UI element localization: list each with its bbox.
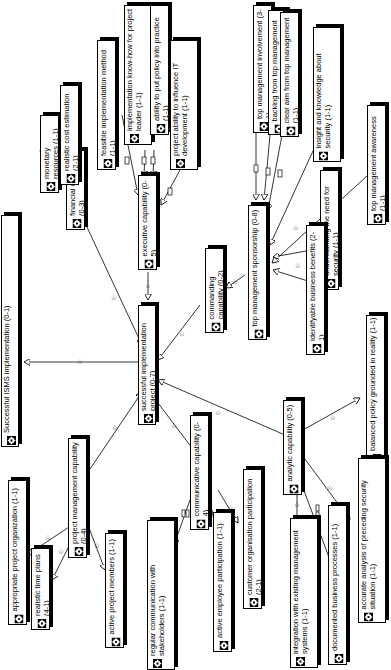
node-label: top management awareness (1-1) (368, 107, 386, 211)
goal-gear-icon (291, 657, 300, 666)
node-label: clear aim from top management (1-1) (281, 14, 299, 123)
node-dbp[interactable]: documented business processes (1-1) (328, 505, 347, 665)
goal-gear-icon (151, 124, 160, 133)
node-cmc[interactable]: communicative capability (0-4) (190, 415, 209, 530)
node-label: project ability to influence IT developm… (171, 42, 189, 156)
node-apm[interactable]: active project members (1-1) (105, 533, 124, 648)
node-ibb[interactable]: identifyable business benefits (2-1) (306, 225, 325, 355)
svg-text:☆: ☆ (145, 282, 151, 290)
node-rce[interactable]: realistic cost estimation (2-1) (60, 85, 79, 185)
node-tms[interactable]: top management sponsorship (0-8) (248, 205, 267, 340)
svg-text:☆: ☆ (58, 548, 64, 556)
node-bpg[interactable]: balanced policy grounded in reality (1-1… (366, 315, 385, 465)
svg-text:☆: ☆ (112, 424, 118, 432)
svg-text:☆: ☆ (45, 534, 51, 542)
goal-gear-icon (41, 182, 50, 191)
goal-gear-icon (269, 124, 278, 133)
goal-gear-icon (254, 122, 263, 131)
node-ikh[interactable]: implementation know-how for project lead… (124, 5, 152, 145)
node-com[interactable]: commanding capability (0-2) (205, 248, 224, 333)
goal-gear-icon (139, 414, 148, 423)
node-label: realistic cost estimation (2-1) (61, 87, 79, 171)
svg-text:☆: ☆ (295, 262, 301, 270)
node-label: customer organisation participation (2-1… (244, 471, 262, 595)
goal-gear-icon (2, 436, 11, 445)
goal-gear-icon (32, 619, 41, 628)
node-cop[interactable]: customer organisation participation (2-1… (243, 469, 262, 609)
goal-gear-icon (106, 637, 115, 646)
node-pai[interactable]: project ability to influence IT developm… (170, 40, 198, 170)
node-aep[interactable]: active employee participation (1-1) (213, 512, 232, 652)
node-label: feasible implementation method (1-1) (98, 42, 116, 156)
goal-gear-icon (329, 654, 338, 663)
goal-gear-icon (214, 641, 223, 650)
goal-gear-icon (314, 151, 323, 160)
svg-text:☆: ☆ (232, 278, 238, 286)
node-iem[interactable]: integration with existing management sys… (290, 518, 318, 668)
svg-text:☆: ☆ (94, 542, 100, 550)
goal-gear-icon (281, 126, 290, 135)
node-apl[interactable]: ability to put policy into practice (1-1… (150, 5, 169, 135)
goal-gear-icon (359, 612, 368, 621)
node-label: successful implementation project (0-7) (139, 307, 157, 411)
node-tma[interactable]: top management awareness (1-1) (367, 105, 386, 225)
goal-gear-icon (206, 322, 215, 331)
node-label: active project members (1-1) (106, 539, 115, 634)
node-label: communicative capability (0-4) (191, 417, 209, 516)
node-label: documented business processes (1-1) (329, 524, 338, 651)
svg-text:☆: ☆ (171, 422, 177, 430)
goal-gear-icon (61, 174, 70, 183)
node-iks[interactable]: insight and knowledge about security (1-… (313, 27, 341, 162)
goal-gear-icon (171, 159, 180, 168)
node-label: balanced policy grounded in reality (1-1… (367, 318, 376, 451)
node-label: accurate analysis of preceding security … (359, 460, 377, 609)
svg-text:☆: ☆ (111, 294, 117, 302)
node-label: active employee participation (1-1) (214, 523, 223, 638)
node-aap[interactable]: accurate analysis of preceding security … (358, 458, 386, 623)
node-ana[interactable]: analytic capability (0-5) (283, 400, 302, 495)
node-label: project management capability (0-4) (69, 440, 87, 544)
node-label: integration with existing management sys… (291, 520, 309, 654)
node-exe[interactable]: executive capability (0-5) (138, 175, 157, 270)
node-label: identifyable business benefits (2-1) (307, 227, 325, 341)
svg-text:☆: ☆ (327, 484, 333, 492)
node-label: ability to put policy into practice (1-1… (151, 7, 169, 121)
node-cat[interactable]: clear aim from top management (1-1) (280, 12, 299, 137)
svg-text:☆: ☆ (215, 409, 221, 417)
node-rtp[interactable]: realistic time plans (4-1) (31, 548, 50, 630)
goal-gear-icon (368, 214, 377, 223)
goal-gear-icon (244, 598, 253, 607)
node-label: Successful ISMS implementation (0-1) (2, 305, 11, 433)
goal-gear-icon (9, 614, 18, 623)
node-label: insight and knowledge about security (1-… (314, 29, 332, 148)
goal-gear-icon (67, 219, 76, 228)
node-label: analytic capability (0-5) (284, 404, 293, 481)
svg-text:☆: ☆ (293, 224, 299, 232)
node-fim[interactable]: feasible implementation method (1-1) (97, 40, 116, 170)
node-rcs[interactable]: regular communication with stakeholders … (147, 520, 175, 670)
goal-gear-icon (284, 484, 293, 493)
node-label: top management sponsorship (0-8) (249, 209, 258, 326)
node-label: executive capability (0-5) (139, 177, 157, 256)
node-pmc[interactable]: project management capability (0-4) (68, 438, 87, 558)
node-apo[interactable]: appropriate project organization (1-1) (8, 480, 27, 625)
node-label: appropriate project organization (1-1) (9, 488, 18, 611)
node-label: implementation know-how for project lead… (125, 7, 143, 131)
goal-gear-icon (69, 547, 78, 556)
node-sip[interactable]: successful implementation project (0-7) (138, 305, 156, 425)
node-root[interactable]: Successful ISMS implementation (0-1) (1, 215, 19, 447)
node-label: regular communication with stakeholders … (148, 522, 166, 656)
goal-gear-icon (249, 329, 258, 338)
svg-text:☆: ☆ (330, 414, 336, 422)
goal-gear-icon (139, 259, 148, 268)
svg-text:☆: ☆ (228, 504, 234, 512)
svg-text:☆: ☆ (294, 501, 300, 509)
node-label: realistic time plans (4-1) (32, 550, 50, 616)
goal-gear-icon (307, 344, 316, 353)
node-mon[interactable]: monetary resources (1-1) (40, 115, 59, 193)
goal-gear-icon (191, 519, 200, 528)
svg-text:☆: ☆ (179, 330, 185, 338)
svg-text:☆: ☆ (77, 358, 83, 366)
node-label: commanding capability (0-2) (206, 250, 224, 319)
goal-gear-icon (98, 159, 107, 168)
